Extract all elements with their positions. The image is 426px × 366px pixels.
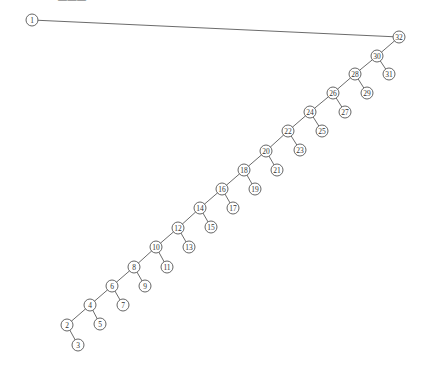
node-label: 31 xyxy=(385,70,393,79)
node-label: 27 xyxy=(341,108,349,117)
tree-node-9: 9 xyxy=(139,280,151,292)
node-label: 13 xyxy=(185,243,193,252)
node-label: 16 xyxy=(218,185,226,194)
tree-node-10: 10 xyxy=(150,241,162,253)
tree-node-4: 4 xyxy=(84,299,96,311)
node-label: 20 xyxy=(262,147,270,156)
tree-node-30: 30 xyxy=(371,50,383,62)
node-label: 5 xyxy=(98,320,102,329)
node-label: 30 xyxy=(373,52,381,61)
node-label: 15 xyxy=(207,223,215,232)
node-label: 26 xyxy=(329,89,337,98)
tree-node-11: 11 xyxy=(161,261,173,273)
tree-node-17: 17 xyxy=(227,202,239,214)
tree-diagram: 1323031282926272425222320211819161714151… xyxy=(0,0,426,366)
node-label: 7 xyxy=(121,301,125,310)
tree-node-31: 31 xyxy=(383,68,395,80)
tree-node-21: 21 xyxy=(271,164,283,176)
node-label: 4 xyxy=(88,301,92,310)
tree-node-32: 32 xyxy=(393,31,405,43)
tree-node-26: 26 xyxy=(327,87,339,99)
tree-node-15: 15 xyxy=(205,221,217,233)
node-label: 6 xyxy=(110,282,114,291)
node-label: 28 xyxy=(351,70,359,79)
edge-1-32 xyxy=(32,20,399,37)
node-label: 10 xyxy=(152,243,160,252)
node-label: 22 xyxy=(284,127,292,136)
node-label: 19 xyxy=(251,185,259,194)
node-label: 23 xyxy=(296,146,304,155)
node-label: 2 xyxy=(65,321,69,330)
node-label: 24 xyxy=(306,108,314,117)
tree-node-27: 27 xyxy=(339,106,351,118)
node-label: 9 xyxy=(143,282,147,291)
node-label: 1 xyxy=(30,16,34,25)
node-label: 8 xyxy=(132,263,136,272)
node-label: 25 xyxy=(318,127,326,136)
tree-node-5: 5 xyxy=(94,318,106,330)
tree-node-1: 1 xyxy=(26,14,38,26)
tree-node-12: 12 xyxy=(172,222,184,234)
node-label: 14 xyxy=(196,204,204,213)
tree-edges xyxy=(32,20,399,345)
tree-node-29: 29 xyxy=(361,87,373,99)
node-label: 18 xyxy=(240,166,248,175)
tree-node-19: 19 xyxy=(249,183,261,195)
tree-node-24: 24 xyxy=(304,106,316,118)
tree-node-25: 25 xyxy=(316,125,328,137)
node-label: 3 xyxy=(76,341,80,350)
node-label: 12 xyxy=(174,224,182,233)
tree-nodes: 1323031282926272425222320211819161714151… xyxy=(26,14,405,351)
node-label: 32 xyxy=(395,33,403,42)
tree-node-6: 6 xyxy=(106,280,118,292)
tree-node-2: 2 xyxy=(61,319,73,331)
tree-node-13: 13 xyxy=(183,241,195,253)
tree-node-3: 3 xyxy=(72,339,84,351)
tree-node-16: 16 xyxy=(216,183,228,195)
node-label: 21 xyxy=(273,166,281,175)
tree-node-22: 22 xyxy=(282,125,294,137)
tree-node-7: 7 xyxy=(117,299,129,311)
tree-node-18: 18 xyxy=(238,164,250,176)
tree-node-8: 8 xyxy=(128,261,140,273)
node-label: 11 xyxy=(163,263,170,272)
tree-node-28: 28 xyxy=(349,68,361,80)
tree-node-23: 23 xyxy=(294,144,306,156)
node-label: 17 xyxy=(229,204,237,213)
tree-node-14: 14 xyxy=(194,202,206,214)
tree-node-20: 20 xyxy=(260,145,272,157)
node-label: 29 xyxy=(363,89,371,98)
